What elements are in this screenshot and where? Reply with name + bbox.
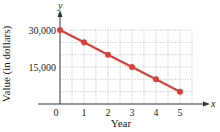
data-point: [129, 64, 135, 70]
x-tick-label: 1: [82, 107, 87, 118]
value-line: [60, 30, 180, 92]
x-tick-label: 4: [154, 107, 159, 118]
x-axis-label: Year: [111, 117, 132, 129]
axes: [38, 10, 210, 107]
data-point: [57, 27, 63, 33]
data-point: [153, 76, 159, 82]
x-axis-arrow-icon: [203, 102, 210, 107]
y-tick-label: 15,000: [29, 62, 57, 73]
x-tick-label: 0: [54, 107, 59, 118]
x-tick-label: 5: [178, 107, 183, 118]
data-series: [57, 27, 183, 95]
y-axis-label: Value (in dollars): [0, 25, 13, 102]
data-point: [81, 39, 87, 45]
y-tick-label: 30,000: [29, 25, 57, 36]
line-chart: 01234515,00030,000 x y Year Value (in do…: [0, 0, 220, 132]
data-point: [105, 52, 111, 58]
y-axis-symbol: y: [57, 0, 63, 11]
x-tick-label: 2: [106, 107, 111, 118]
y-axis-arrow-icon: [58, 10, 63, 17]
x-axis-symbol: x: [210, 98, 216, 109]
data-point: [177, 89, 183, 95]
